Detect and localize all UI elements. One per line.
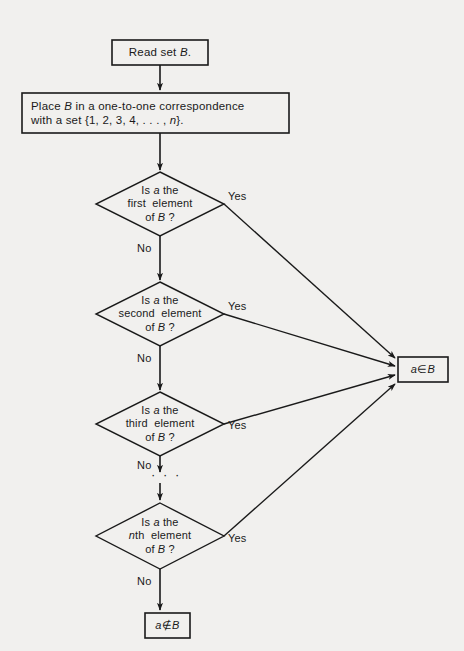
- node-decision2-diamond: [96, 282, 224, 346]
- edge-decision2-yes: [224, 314, 395, 366]
- edge-decision3-yes: [224, 375, 395, 424]
- flowchart-diagram: Read set B. Place B in a one-to-one corr…: [0, 0, 464, 651]
- node-read-set-box: [112, 40, 208, 65]
- node-decision3-diamond: [96, 392, 224, 456]
- edge-decision4-yes: [224, 384, 395, 536]
- node-terminal-member-box: [398, 357, 448, 382]
- node-decision1-diamond: [96, 172, 224, 236]
- node-terminal-not-member-box: [145, 613, 190, 638]
- flowchart-canvas: [0, 0, 464, 651]
- node-correspondence-box: [22, 93, 289, 133]
- node-decision4-diamond: [96, 503, 224, 569]
- edge-decision1-yes: [224, 204, 395, 358]
